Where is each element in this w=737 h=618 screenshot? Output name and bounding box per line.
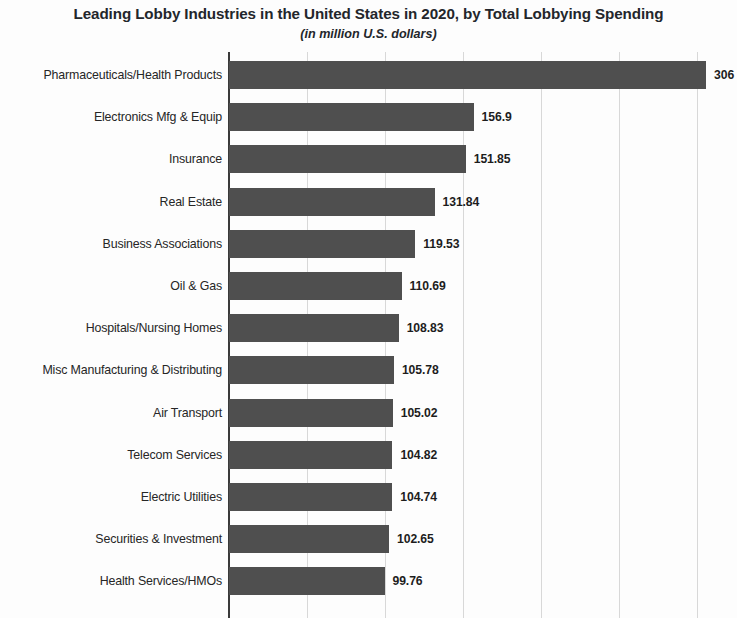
bar-row: Real Estate131.84 (0, 188, 737, 216)
bar-row: Securities & Investment102.65 (0, 525, 737, 553)
bar-value-label: 105.78 (402, 356, 439, 384)
bar-value-label: 151.85 (474, 145, 511, 173)
category-label: Electronics Mfg & Equip (94, 103, 222, 131)
bar-row: Hospitals/Nursing Homes108.83 (0, 314, 737, 342)
bar-value-label: 131.84 (443, 188, 480, 216)
bar-row: Insurance151.85 (0, 145, 737, 173)
category-label: Pharmaceuticals/Health Products (43, 61, 222, 89)
bar-row: Oil & Gas110.69 (0, 272, 737, 300)
bar-value-label: 104.74 (400, 483, 437, 511)
bar-value-label: 102.65 (397, 525, 434, 553)
bars-layer: Pharmaceuticals/Health Products306Electr… (0, 0, 737, 618)
bar-row: Business Associations119.53 (0, 230, 737, 258)
bar (229, 61, 706, 89)
bar (229, 272, 402, 300)
bar (229, 525, 389, 553)
bar-value-label: 104.82 (400, 441, 437, 469)
category-label: Electric Utilities (141, 483, 222, 511)
bar-value-label: 306 (714, 61, 734, 89)
category-label: Air Transport (153, 399, 222, 427)
bar (229, 230, 415, 258)
bar-value-label: 108.83 (407, 314, 444, 342)
bar-row: Health Services/HMOs99.76 (0, 567, 737, 595)
bar-value-label: 119.53 (423, 230, 459, 258)
category-label: Health Services/HMOs (100, 567, 222, 595)
category-label: Misc Manufacturing & Distributing (42, 356, 222, 384)
category-label: Telecom Services (127, 441, 222, 469)
bar (229, 356, 394, 384)
category-label: Business Associations (103, 230, 222, 258)
category-label: Hospitals/Nursing Homes (86, 314, 222, 342)
bar (229, 441, 392, 469)
bar-row: Pharmaceuticals/Health Products306 (0, 61, 737, 89)
bar-value-label: 110.69 (410, 272, 446, 300)
bar (229, 399, 393, 427)
bar (229, 483, 392, 511)
category-label: Insurance (169, 145, 222, 173)
plot-area: Pharmaceuticals/Health Products306Electr… (0, 0, 737, 618)
bar (229, 188, 435, 216)
bar-row: Electric Utilities104.74 (0, 483, 737, 511)
category-label: Securities & Investment (95, 525, 222, 553)
bar-row: Misc Manufacturing & Distributing105.78 (0, 356, 737, 384)
bar-value-label: 105.02 (401, 399, 438, 427)
category-label: Real Estate (160, 188, 222, 216)
bar-chart: Leading Lobby Industries in the United S… (0, 0, 737, 618)
bar (229, 314, 399, 342)
bar-value-label: 99.76 (393, 567, 423, 595)
bar (229, 103, 474, 131)
bar-row: Telecom Services104.82 (0, 441, 737, 469)
bar (229, 145, 466, 173)
category-label: Oil & Gas (170, 272, 222, 300)
bar-row: Air Transport105.02 (0, 399, 737, 427)
bar (229, 567, 385, 595)
bar-row: Electronics Mfg & Equip156.9 (0, 103, 737, 131)
bar-value-label: 156.9 (482, 103, 512, 131)
